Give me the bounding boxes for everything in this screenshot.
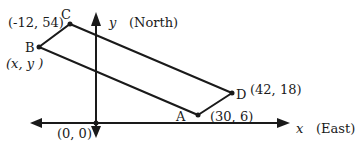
y-axis-direction: (North) — [129, 15, 178, 30]
x-axis-right-arrow-icon — [277, 118, 290, 128]
origin-point — [94, 121, 99, 126]
point-c-coord: (-12, 54) — [8, 15, 64, 30]
coordinate-diagram: C (-12, 54) y (North) B (x, y ) D (42, 1… — [0, 0, 358, 148]
point-a — [196, 113, 201, 118]
point-a-coord: (30, 6) — [210, 109, 253, 124]
point-c — [68, 22, 73, 27]
origin-label: (0, 0) — [57, 126, 92, 141]
point-d — [230, 91, 235, 96]
y-axis-up-arrow-icon — [91, 12, 101, 26]
x-axis-direction: (East) — [316, 121, 355, 136]
y-axis — [91, 12, 101, 138]
point-d-coord: (42, 18) — [250, 82, 302, 97]
point-b — [37, 45, 42, 50]
y-axis-label: y — [108, 15, 117, 30]
x-axis-label: x — [296, 121, 304, 136]
x-axis-left-arrow-icon — [30, 118, 42, 128]
y-axis-down-arrow-icon — [91, 126, 101, 138]
point-b-coord: (x, y ) — [6, 56, 43, 71]
point-d-name: D — [236, 87, 246, 102]
parallelogram-abcd — [39, 24, 232, 115]
point-b-name: B — [25, 40, 35, 55]
point-a-name: A — [175, 109, 186, 124]
